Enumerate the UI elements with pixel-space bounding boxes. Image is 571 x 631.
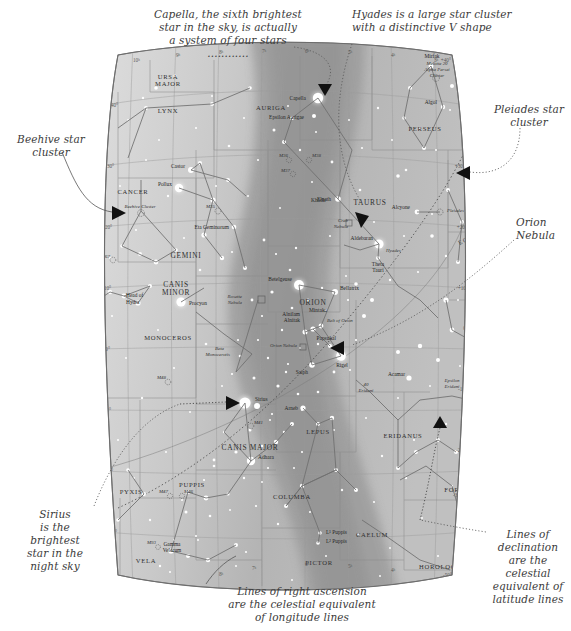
svg-text:Adhara: Adhara bbox=[258, 454, 274, 460]
svg-text:Hydra: Hydra bbox=[126, 299, 140, 305]
svg-text:Alnilam: Alnilam bbox=[282, 311, 300, 317]
svg-text:+40°: +40° bbox=[108, 102, 118, 108]
svg-text:Acamar: Acamar bbox=[388, 371, 405, 377]
svg-text:4ʰ: 4ʰ bbox=[391, 567, 396, 573]
callout-sirius: Sirius is the brightest star in the nigh… bbox=[10, 508, 100, 573]
svg-text:CAELUM: CAELUM bbox=[356, 531, 388, 538]
svg-text:+10°: +10° bbox=[101, 285, 111, 291]
svg-text:HYDRA: HYDRA bbox=[76, 319, 103, 326]
star-eps-aurigae bbox=[312, 114, 316, 118]
svg-text:M67: M67 bbox=[100, 254, 111, 259]
svg-text:Cluster: Cluster bbox=[430, 73, 444, 78]
svg-text:Khadir: Khadir bbox=[311, 197, 326, 203]
svg-text:6ʰ: 6ʰ bbox=[305, 561, 310, 567]
svg-text:Rosette: Rosette bbox=[227, 294, 243, 299]
leader-pleiades bbox=[470, 128, 520, 173]
svg-text:VELA: VELA bbox=[136, 557, 156, 564]
svg-text:Procyon: Procyon bbox=[189, 300, 207, 306]
svg-text:ORION: ORION bbox=[300, 298, 327, 307]
svg-text:Alnitak: Alnitak bbox=[284, 317, 300, 323]
svg-text:Pleiades: Pleiades bbox=[446, 208, 464, 213]
svg-text:L² Puppis: L² Puppis bbox=[326, 538, 347, 544]
svg-text:ERIDANUS: ERIDANUS bbox=[384, 432, 423, 439]
svg-text:Eridani: Eridani bbox=[358, 388, 375, 393]
svg-text:Aldebaran: Aldebaran bbox=[351, 235, 374, 241]
svg-text:+30°: +30° bbox=[104, 163, 114, 169]
svg-text:ARIES: ARIES bbox=[489, 191, 512, 198]
svg-text:Head of: Head of bbox=[126, 292, 143, 298]
svg-text:M37: M37 bbox=[280, 168, 291, 173]
svg-text:Nebula: Nebula bbox=[333, 224, 349, 229]
svg-text:10ʰ: 10ʰ bbox=[133, 57, 140, 63]
svg-text:Hyades: Hyades bbox=[385, 248, 401, 253]
svg-text:Algol: Algol bbox=[425, 99, 438, 105]
svg-text:M48: M48 bbox=[156, 375, 167, 380]
callout-capella: Capella, the sixth brightest star in the… bbox=[148, 8, 308, 60]
svg-text:Epsilon: Epsilon bbox=[444, 378, 460, 383]
callout-right-ascension: Lines of right ascension are the celesti… bbox=[212, 585, 392, 624]
svg-text:URSA: URSA bbox=[158, 73, 178, 80]
svg-text:+20°: +20° bbox=[102, 224, 112, 230]
callout-beehive: Beehive star cluster bbox=[6, 133, 96, 159]
svg-text:Alpha Persei: Alpha Persei bbox=[423, 67, 450, 72]
svg-text:40: 40 bbox=[364, 382, 369, 387]
svg-text:Tauri: Tauri bbox=[372, 267, 384, 273]
svg-text:COLUMBA: COLUMBA bbox=[273, 493, 311, 500]
svg-text:M46: M46 bbox=[183, 489, 194, 494]
svg-text:Pollux: Pollux bbox=[158, 181, 172, 187]
svg-text:LEPUS: LEPUS bbox=[306, 428, 330, 435]
svg-text:MAJOR: MAJOR bbox=[155, 80, 181, 87]
svg-text:M35: M35 bbox=[205, 204, 216, 209]
m77-symbol bbox=[527, 326, 531, 330]
svg-text:AURIGA: AURIGA bbox=[256, 104, 286, 111]
svg-text:PICTOR: PICTOR bbox=[305, 559, 333, 566]
svg-text:Beta: Beta bbox=[215, 346, 225, 351]
svg-text:Arneb: Arneb bbox=[285, 405, 299, 411]
svg-text:Eta Geminorum: Eta Geminorum bbox=[194, 224, 229, 230]
svg-text:GEMINI: GEMINI bbox=[171, 251, 202, 260]
svg-text:HOROLOGIUM: HOROLOGIUM bbox=[419, 563, 471, 570]
svg-text:LYNX: LYNX bbox=[158, 107, 178, 114]
callout-hyades: Hyades is a large star cluster with a di… bbox=[352, 8, 520, 34]
leader-beehive bbox=[62, 152, 112, 212]
svg-text:Orion Nebula: Orion Nebula bbox=[270, 343, 298, 348]
callout-pleiades: Pleiades star cluster bbox=[490, 103, 568, 129]
svg-text:M38: M38 bbox=[311, 153, 322, 158]
star-acamar bbox=[406, 375, 411, 380]
svg-text:Monocerotis: Monocerotis bbox=[204, 352, 230, 357]
svg-text:4ʰ: 4ʰ bbox=[391, 52, 396, 58]
svg-text:Bellatrix: Bellatrix bbox=[340, 285, 359, 291]
svg-text:5ʰ: 5ʰ bbox=[348, 563, 353, 569]
svg-text:L¹ Puppis: L¹ Puppis bbox=[326, 529, 347, 535]
svg-text:Capella: Capella bbox=[290, 95, 307, 101]
svg-text:MINOR: MINOR bbox=[162, 288, 190, 297]
svg-text:Alcyone: Alcyone bbox=[392, 204, 411, 210]
sky-map-body: URSA MAJOR LYNX AURIGA PERSEUS ARIES CAN… bbox=[76, 36, 531, 600]
svg-text:TAURUS: TAURUS bbox=[353, 198, 386, 207]
svg-text:MONOCEROS: MONOCEROS bbox=[144, 334, 192, 341]
svg-text:Rigel: Rigel bbox=[336, 362, 348, 368]
svg-text:PERSEUS: PERSEUS bbox=[408, 125, 441, 132]
svg-text:PUPPIS: PUPPIS bbox=[179, 481, 205, 488]
svg-text:CANCER: CANCER bbox=[118, 188, 149, 195]
svg-text:M36: M36 bbox=[278, 153, 289, 158]
svg-text:+40°: +40° bbox=[441, 57, 451, 63]
svg-text:Mintaka: Mintaka bbox=[309, 307, 328, 313]
star-chart-figure: .cname{font-family:"Liberation Serif",se… bbox=[0, 0, 571, 631]
callout-declination: Lines of declination are the celestial e… bbox=[487, 528, 569, 606]
svg-text:Beehive Cluster: Beehive Cluster bbox=[124, 204, 155, 209]
svg-text:Saiph: Saiph bbox=[296, 369, 309, 375]
svg-text:M93: M93 bbox=[146, 540, 157, 545]
svg-text:Velorum: Velorum bbox=[163, 547, 182, 553]
svg-text:Belt of Orion: Belt of Orion bbox=[327, 318, 353, 323]
svg-text:Sirius: Sirius bbox=[255, 396, 268, 402]
svg-text:Epsilon Aurigae: Epsilon Aurigae bbox=[269, 114, 304, 120]
svg-text:Castor: Castor bbox=[171, 163, 185, 169]
svg-text:Betelgeuse: Betelgeuse bbox=[268, 276, 292, 282]
svg-text:Crab: Crab bbox=[338, 218, 349, 223]
svg-text:M77: M77 bbox=[517, 318, 528, 323]
svg-text:M47: M47 bbox=[158, 489, 169, 494]
svg-text:Papsukal: Papsukal bbox=[317, 335, 337, 341]
svg-text:3ʰ: 3ʰ bbox=[434, 57, 439, 63]
svg-text:PYXIS: PYXIS bbox=[120, 488, 143, 495]
